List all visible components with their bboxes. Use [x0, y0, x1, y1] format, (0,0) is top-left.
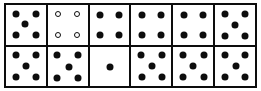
filled-pip-icon	[33, 11, 40, 18]
filled-pip-icon	[97, 32, 104, 39]
filled-pip-icon	[138, 74, 145, 81]
filled-pip-icon	[12, 74, 19, 81]
filled-pip-icon	[180, 12, 187, 19]
filled-pip-icon	[157, 32, 164, 39]
pip-cell	[90, 5, 132, 45]
filled-pip-icon	[242, 52, 249, 59]
filled-pip-icon	[22, 63, 29, 70]
pip-cell	[131, 47, 173, 87]
filled-pip-icon	[221, 74, 228, 81]
filled-pip-icon	[179, 52, 186, 59]
filled-pip-icon	[221, 52, 228, 59]
filled-pip-icon	[149, 63, 156, 70]
filled-pip-icon	[106, 64, 113, 71]
pip-cell	[48, 47, 90, 87]
filled-pip-icon	[138, 52, 145, 59]
pip-grid-row-bottom	[6, 47, 255, 87]
filled-pip-icon	[33, 52, 40, 59]
pip-cell	[173, 5, 215, 45]
hollow-pip-icon	[55, 32, 61, 38]
filled-pip-icon	[12, 32, 19, 39]
filled-pip-icon	[232, 21, 239, 28]
pip-cell	[131, 5, 173, 45]
pip-grid-row-top	[6, 5, 255, 47]
filled-pip-icon	[138, 12, 145, 19]
pip-cell	[215, 5, 255, 45]
filled-pip-icon	[199, 12, 206, 19]
filled-pip-icon	[75, 75, 82, 82]
pip-cell	[6, 47, 48, 87]
filled-pip-icon	[116, 12, 123, 19]
filled-pip-icon	[200, 52, 207, 59]
filled-pip-icon	[158, 52, 165, 59]
filled-pip-icon	[54, 52, 61, 59]
filled-pip-icon	[97, 12, 104, 19]
hollow-pip-icon	[74, 32, 80, 38]
filled-pip-icon	[65, 64, 72, 71]
pip-cell	[48, 5, 90, 45]
hollow-pip-icon	[55, 11, 61, 17]
filled-pip-icon	[12, 11, 19, 18]
filled-pip-icon	[116, 32, 123, 39]
filled-pip-icon	[138, 32, 145, 39]
filled-pip-icon	[33, 74, 40, 81]
filled-pip-icon	[12, 52, 19, 59]
pip-grid-figure	[0, 0, 261, 91]
filled-pip-icon	[21, 20, 28, 27]
pip-grid	[4, 3, 257, 88]
filled-pip-icon	[242, 74, 249, 81]
filled-pip-icon	[242, 32, 249, 39]
hollow-pip-icon	[74, 11, 80, 17]
filled-pip-icon	[75, 52, 82, 59]
pip-cell	[173, 47, 215, 87]
filled-pip-icon	[179, 74, 186, 81]
filled-pip-icon	[221, 32, 228, 39]
filled-pip-icon	[158, 74, 165, 81]
filled-pip-icon	[242, 11, 249, 18]
pip-cell	[6, 5, 48, 45]
pip-cell	[90, 47, 132, 87]
filled-pip-icon	[33, 32, 40, 39]
filled-pip-icon	[200, 74, 207, 81]
filled-pip-icon	[199, 32, 206, 39]
pip-cell	[215, 47, 255, 87]
filled-pip-icon	[54, 75, 61, 82]
filled-pip-icon	[190, 63, 197, 70]
filled-pip-icon	[232, 63, 239, 70]
filled-pip-icon	[157, 12, 164, 19]
filled-pip-icon	[221, 11, 228, 18]
filled-pip-icon	[180, 32, 187, 39]
